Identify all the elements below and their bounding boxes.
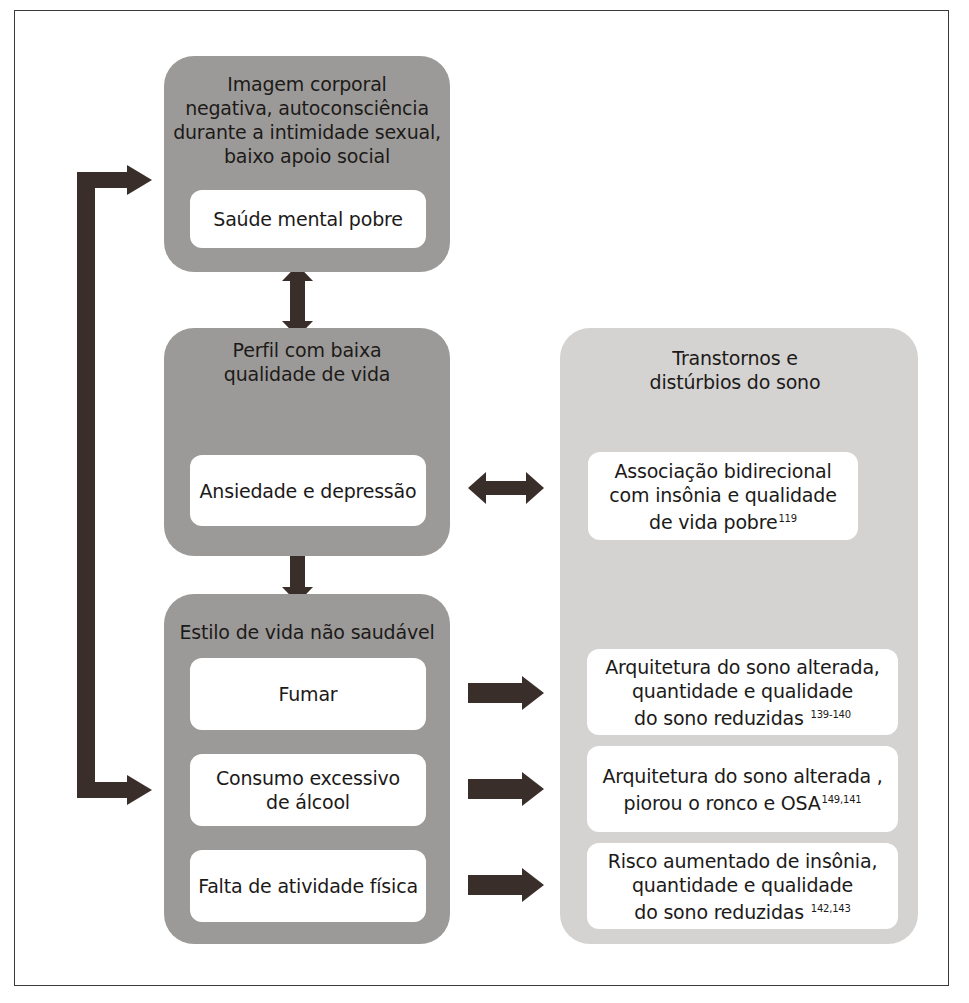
reference-superscript: 149,141 — [822, 794, 862, 805]
heading-line: Transtornos e — [552, 346, 918, 370]
card-bidirectional-association: Associação bidirecional com insônia e qu… — [588, 452, 858, 540]
arrow-right-icon — [468, 772, 544, 806]
group-unhealthy-lifestyle: Estilo de vida não saudável Fumar Consum… — [164, 594, 450, 944]
card-text: Fumar — [279, 682, 338, 706]
card-text: piorou o ronco e OSA149,141 — [624, 788, 862, 815]
group-heading: Perfil com baixa qualidade de vida — [164, 338, 450, 386]
double-arrow-vertical-icon — [282, 265, 313, 337]
double-arrow-horizontal-icon — [468, 472, 544, 504]
card-text-part: do sono reduzidas — [634, 901, 809, 923]
heading-line: Imagem corporal — [164, 72, 450, 96]
group-low-quality-of-life: Perfil com baixa qualidade de vida Ansie… — [164, 328, 450, 556]
heading-line: Perfil com baixa — [164, 338, 450, 362]
card-text-part: piorou o ronco e OSA — [624, 792, 821, 814]
card-text: quantidade e qualidade — [632, 679, 853, 703]
card-text: Arquitetura do sono alterada, — [605, 655, 879, 679]
reference-superscript: 142,143 — [811, 903, 851, 914]
card-text: Ansiedade e depressão — [200, 479, 417, 503]
card-smoking: Fumar — [190, 658, 426, 730]
card-text: de vida pobre119 — [649, 507, 797, 534]
card-text: do sono reduzidas 142,143 — [634, 897, 850, 924]
group-heading: Imagem corporal negativa, autoconsciênci… — [164, 72, 450, 168]
card-text: com insônia e qualidade — [609, 483, 836, 507]
card-anxiety-depression: Ansiedade e depressão — [190, 455, 426, 526]
group-negative-body-image: Imagem corporal negativa, autoconsciênci… — [164, 56, 450, 272]
card-physical-inactivity: Falta de atividade física — [190, 850, 426, 922]
card-text: Falta de atividade física — [198, 874, 418, 898]
bracket-arrow-icon — [77, 165, 152, 805]
reference-superscript: 119 — [778, 513, 797, 524]
heading-line: distúrbios do sono — [552, 370, 918, 394]
card-text: Consumo excessivo — [216, 766, 400, 790]
card-increased-insomnia-risk: Risco aumentado de insônia, quantidade e… — [587, 843, 898, 929]
heading-line: durante a intimidade sexual, — [164, 120, 450, 144]
heading-line: baixo apoio social — [164, 144, 450, 168]
card-poor-mental-health: Saúde mental pobre — [190, 190, 426, 248]
card-text: do sono reduzidas 139-140 — [634, 703, 851, 730]
card-text-part: de vida pobre — [649, 511, 777, 533]
card-text: Arquitetura do sono alterada , — [602, 764, 882, 788]
arrow-right-icon — [468, 868, 544, 902]
group-sleep-disorders: Transtornos e distúrbios do sono Associa… — [560, 328, 918, 944]
group-heading: Estilo de vida não saudável — [164, 620, 450, 644]
card-excess-alcohol: Consumo excessivo de álcool — [190, 754, 426, 826]
card-text-part: do sono reduzidas — [634, 707, 809, 729]
card-text: Risco aumentado de insônia, — [608, 849, 877, 873]
card-text: Saúde mental pobre — [213, 207, 402, 231]
card-altered-sleep-architecture-smoking: Arquitetura do sono alterada, quantidade… — [587, 649, 898, 735]
heading-line: qualidade de vida — [164, 362, 450, 386]
heading-line: negativa, autoconsciência — [164, 96, 450, 120]
group-heading: Transtornos e distúrbios do sono — [552, 346, 918, 394]
card-altered-sleep-architecture-alcohol: Arquitetura do sono alterada , piorou o … — [587, 746, 898, 832]
card-text: de álcool — [266, 790, 350, 814]
arrow-right-icon — [468, 676, 544, 710]
card-text: Associação bidirecional — [614, 459, 831, 483]
card-text: quantidade e qualidade — [632, 873, 853, 897]
reference-superscript: 139-140 — [811, 709, 851, 720]
